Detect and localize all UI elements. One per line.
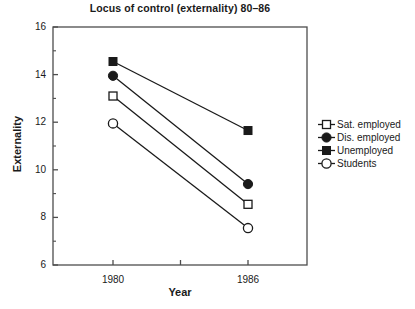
series-line (113, 96, 248, 204)
plot-border (53, 27, 307, 265)
series-dis-employed (108, 71, 252, 188)
marker-filled-circle (243, 179, 252, 188)
data-point-filled-circle (322, 133, 331, 142)
legend-item-label: Sat. employed (335, 119, 401, 130)
marker-open-square (244, 200, 252, 208)
marker-open-square (323, 121, 331, 129)
marker-filled-square (109, 58, 117, 66)
marker-open-square (109, 92, 117, 100)
marker-filled-square (244, 127, 252, 135)
data-point-open-circle (243, 224, 252, 233)
legend-marker-open-square-icon (318, 118, 335, 131)
data-point-open-square (109, 92, 117, 100)
data-point-filled-square (323, 147, 331, 155)
legend-item[interactable]: Dis. employed (318, 131, 415, 144)
data-point-filled-square (244, 127, 252, 135)
legend-item[interactable]: Sat. employed (318, 118, 415, 131)
marker-filled-circle (322, 133, 331, 142)
data-point-open-circle (322, 159, 331, 168)
series-sat-employed (109, 92, 252, 208)
marker-open-circle (243, 224, 252, 233)
data-point-filled-square (109, 58, 117, 66)
legend-marker-filled-circle-icon (318, 131, 335, 144)
data-point-open-circle (108, 119, 117, 128)
legend-item[interactable]: Unemployed (318, 144, 415, 157)
series-line (113, 62, 248, 131)
legend-item-label: Students (335, 158, 376, 169)
marker-filled-square (323, 147, 331, 155)
series-line (113, 123, 248, 228)
legend-item[interactable]: Students (318, 157, 415, 170)
marker-filled-circle (108, 71, 117, 80)
legend-item-label: Dis. employed (335, 132, 400, 143)
data-point-open-square (244, 200, 252, 208)
series-unemployed (109, 58, 252, 135)
marker-open-circle (108, 119, 117, 128)
marker-open-circle (322, 159, 331, 168)
legend-marker-filled-square-icon (318, 144, 335, 157)
chart-legend: Sat. employedDis. employedUnemployedStud… (318, 118, 415, 170)
data-point-open-square (323, 121, 331, 129)
data-point-filled-circle (243, 179, 252, 188)
data-point-filled-circle (108, 71, 117, 80)
chart-container: Locus of control (externality) 80–86 Ext… (0, 0, 415, 309)
series-line (113, 76, 248, 184)
legend-marker-open-circle-icon (318, 157, 335, 170)
series-students (108, 119, 252, 233)
legend-item-label: Unemployed (335, 145, 393, 156)
